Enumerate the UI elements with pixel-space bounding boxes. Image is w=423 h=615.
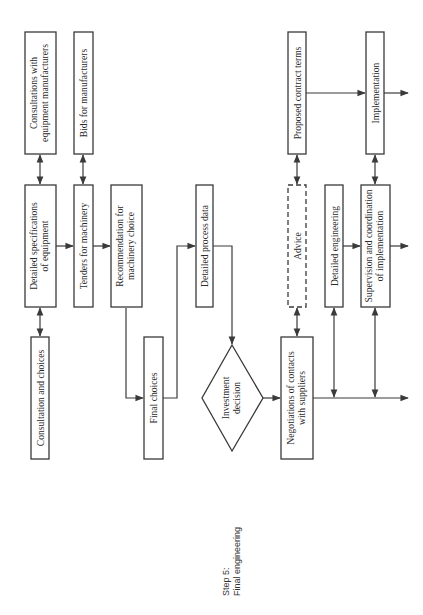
box-supervision-line1: Supervision and coordination (363, 189, 374, 302)
box-recommendation: Recommendation for machinery choice (111, 185, 142, 307)
box-consultations-manufacturers-line1: Consultations with (28, 57, 39, 129)
box-detailed-specs: Detailed specifications of equipment (25, 185, 56, 307)
step-caption: Step 5: Final engineering (221, 527, 242, 596)
box-tenders-label: Tenders for machinery (78, 202, 89, 289)
box-negotiations: Negotiations of contacts with suppliers (281, 337, 313, 459)
box-detailed-engineering-label: Detailed engineering (329, 206, 340, 286)
arrow-processdata-investment (213, 246, 232, 344)
box-advice-label: Advice (292, 232, 303, 260)
flowchart-canvas: Consultations with equipment manufacture… (0, 0, 423, 615)
box-detailed-engineering: Detailed engineering (325, 185, 343, 307)
arrow-final-processdata (163, 246, 195, 398)
box-supervision: Supervision and coordination of implemen… (361, 185, 390, 307)
arrow-recommendation-final (126, 308, 143, 398)
box-final-choices-label: Final choices (148, 372, 159, 423)
box-tenders: Tenders for machinery (74, 185, 93, 307)
box-process-data-label: Detailed process data (199, 204, 210, 287)
box-recommendation-line2: machinery choice (125, 212, 136, 280)
box-detailed-specs-line2: of equipment (39, 220, 50, 271)
box-negotiations-line2: with suppliers (296, 371, 307, 425)
box-consultations-manufacturers-line2: equipment manufacturers (39, 44, 50, 142)
step-caption-line1: Step 5: (221, 567, 231, 596)
box-advice: Advice (288, 185, 306, 307)
decision-investment-line1: Investment (220, 376, 231, 419)
decision-investment: Investment decision (202, 345, 263, 451)
decision-investment-line2: decision (231, 382, 242, 414)
box-bids-label: Bids for manufacturers (78, 49, 89, 138)
box-bids: Bids for manufacturers (74, 32, 93, 154)
box-implementation-label: Implementation (370, 62, 381, 123)
box-detailed-specs-line1: Detailed specifications (28, 202, 39, 290)
box-consultation-choices: Consultation and choices (31, 337, 49, 459)
box-proposed-terms: Proposed contract terms (288, 32, 306, 154)
box-consultation-choices-label: Consultation and choices (35, 350, 46, 447)
box-proposed-terms-label: Proposed contract terms (292, 46, 303, 139)
connectors (40, 93, 408, 398)
box-recommendation-line1: Recommendation for (114, 205, 125, 287)
step-caption-line2: Final engineering (232, 527, 242, 596)
box-consultations-manufacturers: Consultations with equipment manufacture… (25, 32, 56, 154)
box-process-data: Detailed process data (196, 185, 213, 307)
box-implementation: Implementation (366, 32, 384, 154)
box-negotiations-line1: Negotiations of contacts (285, 351, 296, 445)
box-final-choices: Final choices (144, 337, 163, 459)
box-supervision-line2: of implementation (374, 210, 385, 281)
